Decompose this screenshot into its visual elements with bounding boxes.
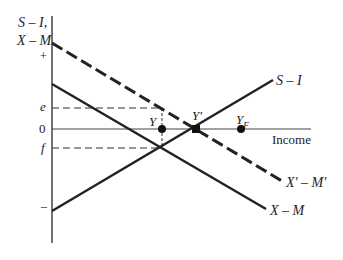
label-xprime-mprime: X′ – M′ bbox=[286, 176, 326, 190]
label-y-f: YF bbox=[236, 113, 249, 130]
tick-plus: + bbox=[40, 50, 47, 62]
y-axis-label-line2: X – M bbox=[17, 34, 51, 48]
tick-f: f bbox=[41, 141, 45, 154]
y-axis-label-line1: S – I, bbox=[18, 16, 47, 30]
point-y-prime bbox=[192, 125, 200, 133]
label-s-i: S – I bbox=[276, 74, 302, 88]
label-y-f-sub: F bbox=[243, 120, 249, 130]
label-income: Income bbox=[272, 133, 311, 146]
tick-minus: – bbox=[41, 200, 47, 212]
s-i-curve bbox=[52, 80, 273, 211]
xprime-mprime-curve bbox=[52, 43, 282, 181]
label-x-m: X – M bbox=[270, 204, 304, 218]
point-y bbox=[158, 125, 166, 133]
tick-zero: 0 bbox=[39, 122, 46, 135]
label-y: Y bbox=[149, 115, 156, 128]
tick-e: e bbox=[40, 100, 46, 113]
diagram-canvas bbox=[0, 0, 343, 260]
label-y-prime: Y′ bbox=[192, 109, 202, 122]
